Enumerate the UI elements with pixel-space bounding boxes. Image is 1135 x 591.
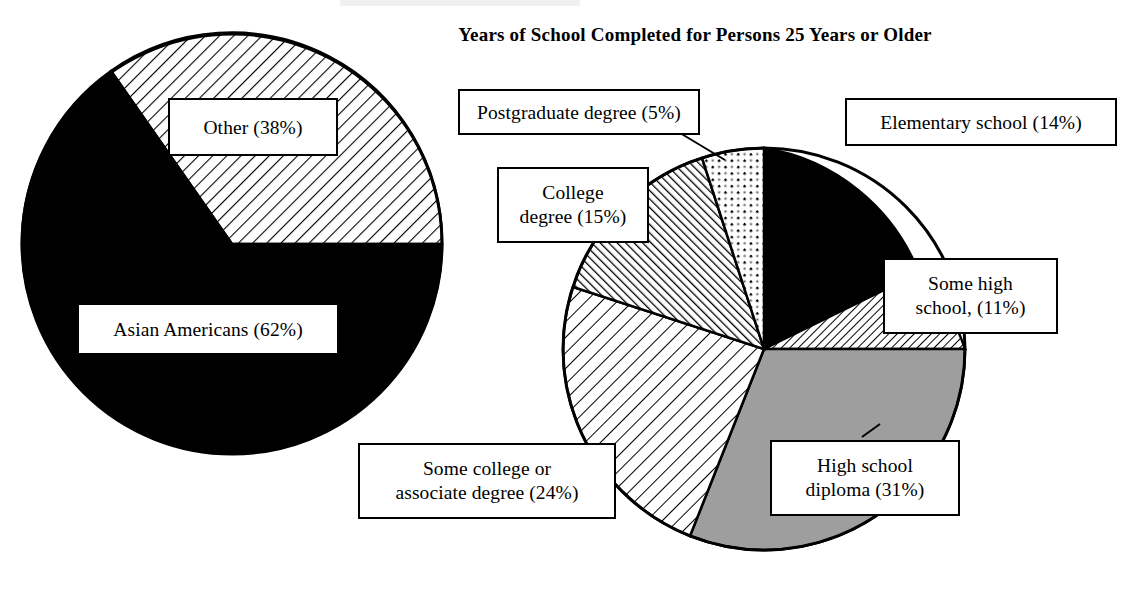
callout-postgraduate-degree: Postgraduate degree (5%) [458,89,700,135]
callout-asian-americans: Asian Americans (62%) [77,303,339,355]
callout-high-school-diploma: High school diploma (31%) [770,440,960,516]
callout-college-degree-line2: degree (15%) [520,205,627,229]
callout-elementary-school: Elementary school (14%) [845,98,1117,146]
callout-some-high-school: Some high school, (11%) [883,258,1058,334]
callout-other-label: Other (38%) [203,116,302,139]
callout-some-college-line1: Some college or [423,457,551,481]
scan-edge-artifact [340,0,580,6]
callout-elementary-school-label: Elementary school (14%) [880,111,1082,134]
callout-high-school-diploma-line1: High school [817,454,913,478]
page-title: Years of School Completed for Persons 25… [455,24,935,46]
callout-college-degree: College degree (15%) [497,167,649,243]
callout-college-degree-line1: College [542,181,603,205]
callout-some-high-school-line2: school, (11%) [916,296,1026,320]
callout-some-college: Some college or associate degree (24%) [358,443,616,519]
figure-canvas: Years of School Completed for Persons 25… [0,0,1135,591]
left-pie-group [22,33,442,454]
callout-some-high-school-line1: Some high [928,272,1013,296]
callout-high-school-diploma-line2: diploma (31%) [806,478,925,502]
callout-some-college-line2: associate degree (24%) [395,481,578,505]
callout-asian-americans-label: Asian Americans (62%) [113,318,302,341]
leader-postgraduate [680,133,725,160]
callout-postgraduate-degree-label: Postgraduate degree (5%) [477,101,681,124]
callout-other: Other (38%) [168,98,338,156]
